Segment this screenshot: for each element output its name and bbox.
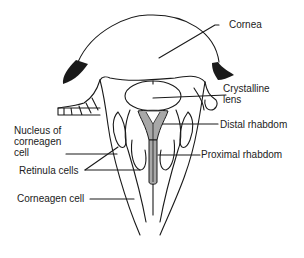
- corneagen-nucleus-left: [113, 112, 126, 148]
- label-retinula-cells: Retinula cells: [19, 166, 78, 177]
- label-nucleus-2: corneagen: [14, 137, 61, 148]
- label-nucleus-3: cell: [14, 148, 29, 159]
- label-cornea: Cornea: [229, 20, 262, 31]
- pigment-left: [63, 60, 88, 84]
- cornea-dome: [78, 15, 219, 62]
- label-crystalline: Crystalline: [223, 84, 270, 95]
- ommatidium-diagram: Cornea Crystalline lens Distal rhabdom P…: [0, 0, 304, 258]
- pigment-right: [212, 62, 234, 80]
- label-corneagen-cell: Corneagen cell: [17, 194, 84, 205]
- crystalline-lens: [125, 81, 181, 111]
- label-distal-rhabdom: Distal rhabdom: [220, 120, 287, 131]
- corneagen-nucleus-right: [180, 112, 193, 148]
- label-lens: lens: [223, 95, 241, 106]
- hinge-left: [58, 98, 100, 115]
- corneagen-cell-right: [160, 82, 205, 235]
- corneagen-cell-left: [100, 80, 140, 235]
- leader-crystalline-lens: [153, 95, 226, 98]
- leader-cornea: [159, 25, 219, 58]
- leader-retinula-a: [85, 147, 118, 170]
- label-proximal-rhabdom: Proximal rhabdom: [201, 150, 282, 161]
- label-nucleus-1: Nucleus of: [14, 126, 61, 137]
